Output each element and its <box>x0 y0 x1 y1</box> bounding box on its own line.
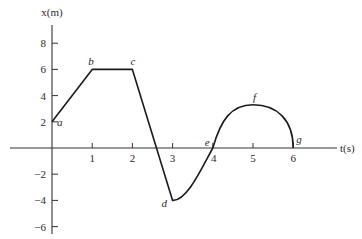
point-label-d: d <box>162 197 168 209</box>
y-tick-label: −6 <box>34 221 46 233</box>
x-tick-label: 4 <box>211 152 217 164</box>
point-label-f: f <box>253 91 258 103</box>
x-tick-label: 1 <box>89 152 95 164</box>
x-tick-label: 2 <box>130 152 136 164</box>
x-tick-label: 3 <box>170 152 176 164</box>
position-time-chart: 123456 8642−2−4−6 x(m) t(s) abcdefg <box>0 0 362 239</box>
y-tick-label: −4 <box>34 194 46 206</box>
point-labels: abcdefg <box>57 55 302 209</box>
x-tick-labels: 123456 <box>89 152 296 164</box>
point-label-b: b <box>88 55 94 67</box>
x-tick-label: 6 <box>290 152 296 164</box>
y-tick-label: 8 <box>41 37 47 49</box>
y-axis-label: x(m) <box>41 6 63 19</box>
y-tick-label: 6 <box>41 63 47 75</box>
point-label-c: c <box>130 55 135 67</box>
y-tick-label: 4 <box>41 90 47 102</box>
x-tick-label: 5 <box>250 152 256 164</box>
x-axis-label: t(s) <box>340 142 355 155</box>
y-tick-label: 2 <box>41 116 47 128</box>
x-ticks <box>92 143 293 148</box>
point-label-e: e <box>205 136 210 148</box>
point-label-g: g <box>296 133 302 145</box>
position-curve <box>52 69 293 200</box>
point-label-a: a <box>57 116 63 128</box>
y-tick-label: −2 <box>34 168 46 180</box>
y-ticks <box>52 43 58 226</box>
y-tick-labels: 8642−2−4−6 <box>34 37 46 232</box>
axes <box>10 25 337 234</box>
